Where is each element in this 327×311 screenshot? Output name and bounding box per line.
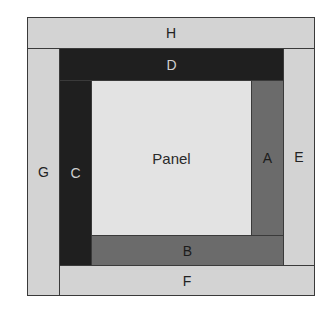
strip-d-label: D	[166, 57, 176, 73]
strip-c-label: C	[70, 165, 80, 181]
strip-b: B	[91, 235, 284, 266]
strip-h-label: H	[166, 25, 176, 41]
strip-b-label: B	[183, 243, 192, 259]
strip-c: C	[59, 80, 92, 266]
strip-d: D	[59, 48, 284, 81]
strip-a-label: A	[263, 150, 272, 166]
strip-g: G	[27, 48, 60, 296]
strip-g-label: G	[38, 164, 49, 180]
strip-h: H	[27, 17, 315, 49]
strip-e: E	[283, 48, 315, 266]
center-panel-label: Panel	[152, 150, 190, 167]
center-panel: Panel	[91, 80, 252, 236]
strip-f-label: F	[183, 273, 192, 289]
log-cabin-block-diagram: H G F E D C B A Panel	[27, 17, 315, 296]
strip-e-label: E	[294, 149, 303, 165]
strip-f: F	[59, 265, 315, 296]
strip-a: A	[251, 80, 284, 236]
